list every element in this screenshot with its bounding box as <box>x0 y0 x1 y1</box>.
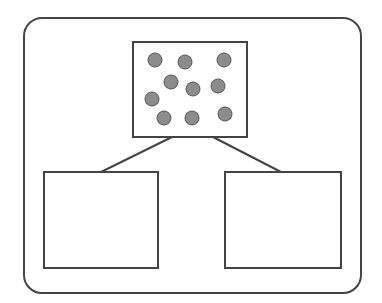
dot <box>164 75 178 89</box>
dot <box>186 82 200 96</box>
child-box-left <box>44 172 158 268</box>
dot <box>148 53 162 67</box>
dot <box>178 55 192 69</box>
dot <box>217 53 231 67</box>
child-box-right <box>225 172 341 268</box>
connector-right <box>213 137 281 172</box>
dot <box>218 107 232 121</box>
dot <box>157 111 171 125</box>
dot <box>145 92 159 106</box>
tree-diagram <box>0 0 382 303</box>
connector-left <box>101 137 172 172</box>
dot <box>185 111 199 125</box>
dot <box>211 79 225 93</box>
